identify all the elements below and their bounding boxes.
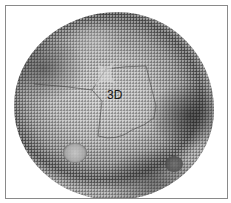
cell-label: 3D [107,88,122,102]
small-cell [165,156,183,172]
polar-body [63,143,87,163]
figure-frame: 3D [5,5,228,199]
cleavage-furrows [6,6,227,198]
